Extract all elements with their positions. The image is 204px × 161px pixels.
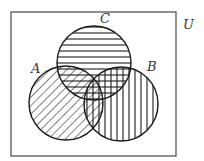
label-c: C xyxy=(100,11,110,26)
label-u: U xyxy=(183,17,195,32)
label-b: B xyxy=(146,59,157,74)
venn-diagram: C A B U xyxy=(0,0,204,161)
label-a: A xyxy=(30,61,40,76)
